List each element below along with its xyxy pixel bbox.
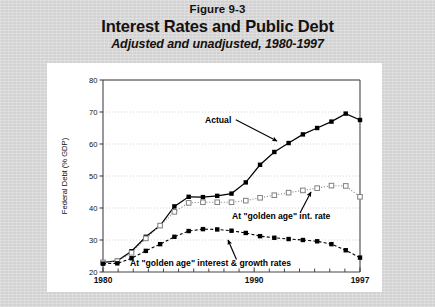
chart-panel: 20304050607080 198019901997 Federal Debt… [47,63,382,292]
chart-series [101,111,363,265]
figure-subtitle: Adjusted and unadjusted, 1980-1997 [0,36,435,53]
y-axis-label: Federal Debt (% GDP) [60,137,69,214]
x-axis-ticks: 198019901997 [94,268,370,286]
line-chart: 20304050607080 198019901997 Federal Debt… [47,63,382,292]
y-axis-ticks: 20304050607080 [89,76,103,277]
annotation-label-1: At "golden age" int. rate [232,211,331,221]
svg-text:60: 60 [89,140,97,149]
figure-number: Figure 9-3 [0,2,435,16]
page-title: Interest Rates and Public Debt [0,16,435,36]
svg-text:1980: 1980 [94,275,113,285]
figure-title-block: Figure 9-3 Interest Rates and Public Deb… [0,2,435,53]
svg-text:40: 40 [89,204,97,213]
svg-text:70: 70 [89,108,97,117]
svg-text:80: 80 [89,76,97,85]
svg-text:1997: 1997 [351,275,370,285]
svg-text:50: 50 [89,172,97,181]
svg-text:30: 30 [89,236,97,245]
chart-axes [103,80,360,272]
svg-text:1990: 1990 [245,275,264,285]
annotation-label-0: Actual [205,115,231,125]
annotation-label-2: At "golden age" interest & growth rates [130,258,291,268]
